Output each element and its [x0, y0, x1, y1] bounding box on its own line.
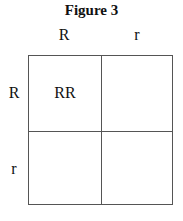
- figure-title: Figure 3: [0, 2, 183, 19]
- cell-r1-c2: [102, 56, 174, 130]
- row-header-1: R: [4, 84, 24, 102]
- column-header-2: r: [122, 26, 152, 44]
- cell-r2-c2: [102, 132, 174, 206]
- column-header-1: R: [49, 26, 79, 44]
- punnett-grid: RR: [28, 55, 173, 205]
- cell-r2-c1: [29, 132, 101, 206]
- row-header-2: r: [4, 160, 24, 178]
- cell-r1-c1: RR: [29, 56, 101, 130]
